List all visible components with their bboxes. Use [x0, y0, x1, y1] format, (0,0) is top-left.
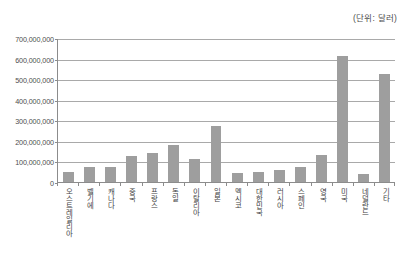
x-axis-label-slot: 러시아	[268, 187, 289, 249]
x-axis-label-slot: 스페인	[289, 187, 310, 249]
y-axis-tick-label: 300,000,000	[0, 117, 54, 126]
x-axis-label-slot: 벨기에	[78, 187, 99, 249]
x-axis-label: 미국	[338, 187, 346, 201]
x-axis-label: 캐나다	[106, 187, 114, 208]
x-axis-label-slot: 미국	[332, 187, 353, 249]
bar[interactable]	[379, 74, 390, 182]
bar[interactable]	[211, 126, 222, 182]
bar-slot	[79, 39, 100, 182]
x-axis-label: 멕시코	[233, 187, 241, 208]
x-axis-tick-mark	[353, 183, 354, 186]
x-axis-label-slot: 중국	[120, 187, 141, 249]
x-axis-label: 이탈리아	[190, 187, 198, 215]
bar[interactable]	[337, 56, 348, 183]
x-axis-label-slot: 이탈리아	[184, 187, 205, 249]
x-axis-tick-mark	[394, 183, 395, 186]
y-axis-tick-label: 600,000,000	[0, 55, 54, 64]
bar[interactable]	[253, 172, 264, 182]
x-axis-tick-mark	[205, 183, 206, 186]
x-axis-label-slot: 일본	[205, 187, 226, 249]
bar-slot	[121, 39, 142, 182]
y-axis-tick-label: 0	[0, 179, 54, 188]
bar-slot	[311, 39, 332, 182]
x-axis-label-slot: 독일	[163, 187, 184, 249]
bar[interactable]	[295, 167, 306, 182]
x-axis-label: 프랑스	[148, 187, 156, 208]
bar[interactable]	[126, 156, 137, 182]
x-axis-label-slot: 기타	[374, 187, 395, 249]
bar-slot	[205, 39, 226, 182]
x-axis-tick-mark	[120, 183, 121, 186]
x-axis-label-slot: 대한민국	[247, 187, 268, 249]
x-axis-tick-mark	[226, 183, 227, 186]
y-axis-tick-label: 400,000,000	[0, 96, 54, 105]
y-axis-tick-label: 200,000,000	[0, 137, 54, 146]
x-axis-tick-mark	[268, 183, 269, 186]
x-axis-label: 대한민국	[254, 187, 262, 215]
bar[interactable]	[63, 172, 74, 182]
x-axis-tick-mark	[374, 183, 375, 186]
x-axis-tick-mark	[99, 183, 100, 186]
bar[interactable]	[189, 159, 200, 182]
x-axis-label-slot: 프랑스	[142, 187, 163, 249]
x-axis-tick-mark	[247, 183, 248, 186]
bar-slot	[58, 39, 79, 182]
bar[interactable]	[232, 173, 243, 182]
bar-slot	[163, 39, 184, 182]
x-axis-label: 네덜란드	[359, 187, 367, 215]
bar-slot	[290, 39, 311, 182]
x-axis-tick-mark	[163, 183, 164, 186]
y-axis-tick-label: 500,000,000	[0, 76, 54, 85]
x-axis-label-slot: 오스트레일리아	[57, 187, 78, 249]
bar[interactable]	[274, 170, 285, 182]
bar[interactable]	[105, 167, 116, 182]
x-axis-label-slot: 네덜란드	[353, 187, 374, 249]
bar-slot	[353, 39, 374, 182]
unit-caption: (단위: 달러)	[353, 11, 397, 23]
bar-slot	[248, 39, 269, 182]
y-axis-tick-label: 100,000,000	[0, 158, 54, 167]
bar-chart: (단위: 달러) 700,000,000600,000,000500,000,0…	[0, 0, 411, 253]
bar[interactable]	[168, 145, 179, 182]
x-axis-label: 독일	[169, 187, 177, 201]
x-axis-label: 기타	[380, 187, 388, 201]
bar-slot	[142, 39, 163, 182]
x-axis-label: 스페인	[296, 187, 304, 208]
bar-slot	[332, 39, 353, 182]
bar-slot	[269, 39, 290, 182]
x-axis-tick-mark	[332, 183, 333, 186]
plot-area: 700,000,000600,000,000500,000,000400,000…	[57, 39, 395, 183]
x-axis-label: 영국	[317, 187, 325, 201]
x-axis-label: 일본	[211, 187, 219, 201]
bar-slot	[227, 39, 248, 182]
x-axis-label: 중국	[127, 187, 135, 201]
bar[interactable]	[316, 155, 327, 182]
y-axis-tick-label: 700,000,000	[0, 35, 54, 44]
x-axis-tick-mark	[57, 183, 58, 186]
x-axis-label: 벨기에	[85, 187, 93, 208]
bar-slot	[100, 39, 121, 182]
x-axis-label: 오스트레일리아	[64, 187, 72, 236]
bar[interactable]	[358, 174, 369, 182]
bar-series	[58, 39, 395, 182]
x-axis-tick-mark	[78, 183, 79, 186]
x-axis-label: 러시아	[275, 187, 283, 208]
x-axis-tick-mark	[289, 183, 290, 186]
x-axis-tick-mark	[311, 183, 312, 186]
bar[interactable]	[147, 153, 158, 182]
x-axis-label-slot: 멕시코	[226, 187, 247, 249]
x-axis-tick-mark	[184, 183, 185, 186]
x-axis-label-slot: 영국	[311, 187, 332, 249]
bar-slot	[374, 39, 395, 182]
bar[interactable]	[84, 167, 95, 182]
x-axis-labels: 오스트레일리아벨기에캐나다중국프랑스독일이탈리아일본멕시코대한민국러시아스페인영…	[57, 187, 395, 249]
x-axis-label-slot: 캐나다	[99, 187, 120, 249]
bar-slot	[184, 39, 205, 182]
x-axis-tick-mark	[142, 183, 143, 186]
